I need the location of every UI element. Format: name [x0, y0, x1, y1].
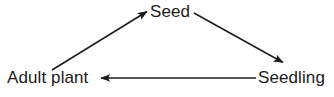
node-label-seedling: Seedling [258, 69, 325, 86]
node-label-seed: Seed [150, 3, 190, 20]
arrow-adult-plant-to-seed [52, 12, 147, 71]
node-label-adult-plant: Adult plant [7, 69, 88, 86]
plant-life-cycle-diagram: Seed Seedling Adult plant [0, 0, 334, 97]
arrow-seed-to-seedling [194, 13, 283, 63]
